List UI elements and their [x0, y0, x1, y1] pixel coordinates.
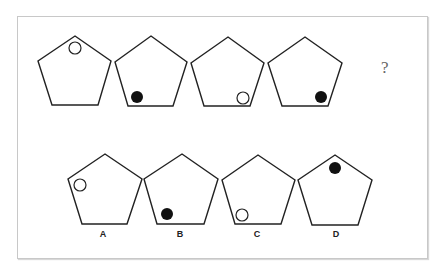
hollow-circle-icon [236, 209, 248, 221]
option-c-label[interactable]: C [247, 229, 267, 239]
option-b-label[interactable]: B [170, 229, 190, 239]
hollow-circle-icon [74, 179, 86, 191]
hollow-circle-icon [69, 42, 81, 54]
question-mark: ? [381, 58, 389, 78]
filled-circle-icon [315, 91, 327, 103]
filled-circle-icon [329, 162, 341, 174]
sequence-pentagon-3 [191, 37, 264, 106]
sequence-pentagon-4 [268, 37, 342, 106]
filled-circle-icon [131, 91, 143, 103]
option-b-pentagon[interactable] [144, 154, 218, 224]
sequence-pentagon-2 [115, 36, 187, 106]
hollow-circle-icon [237, 92, 249, 104]
option-a-label[interactable]: A [93, 229, 113, 239]
option-c-pentagon[interactable] [222, 155, 295, 224]
option-d-label[interactable]: D [326, 229, 346, 239]
filled-circle-icon [161, 208, 173, 220]
puzzle-figures [0, 0, 445, 273]
